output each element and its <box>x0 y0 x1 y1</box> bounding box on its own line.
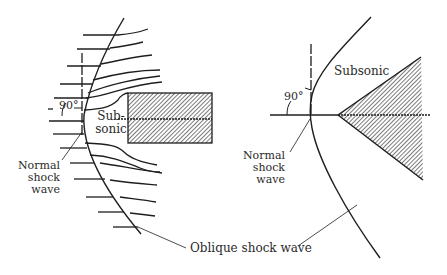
angle-label-right: 90° <box>284 91 304 103</box>
subsonic-label-left-line2: sonic <box>94 123 128 136</box>
oblique-shock-label: Oblique shock wave <box>190 242 312 254</box>
shock-wave-diagram: 90° Sub- sonic Normal shock wave 90° Sub… <box>0 0 447 275</box>
blunt-body <box>128 93 212 143</box>
diagram-graphics <box>0 0 447 275</box>
normal-shock-label-left-line3: wave <box>14 184 60 196</box>
oblique-leader-left <box>138 227 186 248</box>
angle-tick-right <box>305 88 311 90</box>
left-panel <box>48 18 212 234</box>
subsonic-label-right: Subsonic <box>334 65 389 77</box>
normal-shock-label-right: Normal shock wave <box>240 150 285 186</box>
normal-shock-leader-right <box>290 119 310 152</box>
normal-shock-label-right-line3: wave <box>240 174 285 186</box>
oblique-leader-right <box>298 205 357 246</box>
angle-label-left: 90° <box>59 100 79 112</box>
right-panel <box>270 17 430 258</box>
angle-arc-right <box>287 101 291 115</box>
normal-shock-label-left: Normal shock wave <box>14 160 60 196</box>
normal-shock-leader-left <box>62 132 82 160</box>
subsonic-label-left: Sub- sonic <box>94 110 128 136</box>
